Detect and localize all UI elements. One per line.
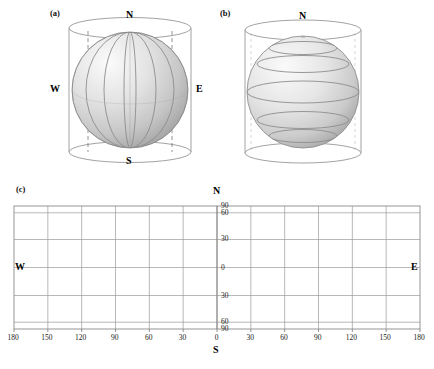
lon-tick-12: 180 (413, 334, 424, 342)
lon-tick-4: 60 (145, 334, 153, 342)
bottom-ticks (14, 329, 420, 332)
panel-b-label: (b) (220, 8, 230, 18)
panel-a-south-label: S (126, 156, 132, 166)
panel-c-graticule (14, 206, 420, 332)
panel-c-west-label: W (15, 262, 25, 272)
figure-root: (a) (b) (c) N S W E N N S W E 9060300306… (0, 0, 434, 369)
lon-tick-10: 120 (346, 334, 357, 342)
panel-c-label: (c) (16, 184, 25, 194)
panel-c-east-label: E (411, 262, 418, 272)
lon-tick-2: 120 (75, 334, 86, 342)
panel-c-north-label: N (213, 186, 220, 196)
lon-tick-1: 150 (41, 334, 52, 342)
lat-tick-4: 30 (221, 292, 229, 300)
lat-tick-2: 30 (221, 235, 229, 243)
panel-a-east-label: E (196, 84, 203, 94)
panel-b-sphere (247, 36, 359, 148)
lon-tick-8: 60 (280, 334, 288, 342)
lat-tick-1: 60 (221, 209, 229, 217)
lon-tick-3: 90 (111, 334, 119, 342)
panel-b-north-label: N (299, 11, 306, 21)
lon-tick-9: 90 (314, 334, 322, 342)
lon-tick-7: 30 (246, 334, 254, 342)
panel-a-west-label: W (50, 84, 60, 94)
lat-tick-3: 0 (221, 264, 225, 272)
lon-tick-11: 150 (380, 334, 391, 342)
panel-a-north-label: N (126, 10, 133, 20)
lon-tick-5: 30 (179, 334, 187, 342)
lon-tick-6: 0 (215, 334, 219, 342)
lat-tick-6: 90 (221, 325, 229, 333)
lon-tick-0: 180 (7, 334, 18, 342)
panel-a-sphere (72, 32, 188, 148)
panel-a-label: (a) (50, 8, 60, 18)
panel-c-south-label: S (213, 345, 219, 355)
